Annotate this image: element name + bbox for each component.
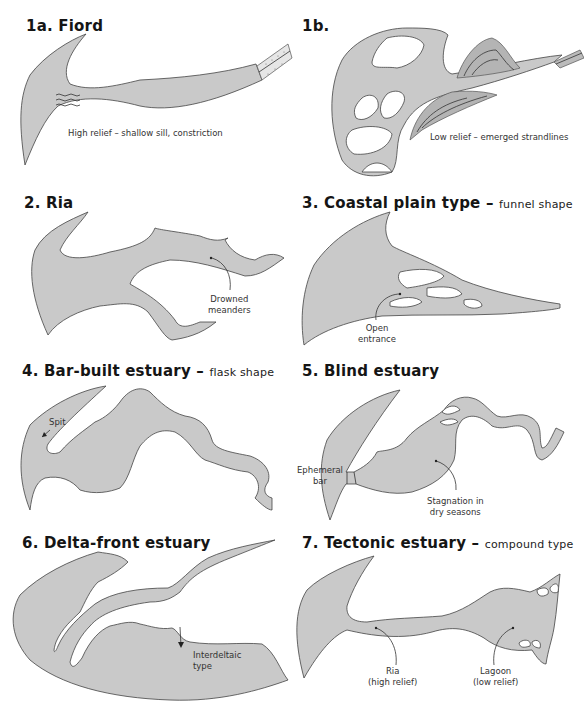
stagnation-label: Stagnation indry seasons	[427, 496, 484, 518]
delta-front-diagram	[0, 530, 292, 713]
panel-6-delta-front: 6. Delta-front estuary Interdeltaictype	[0, 530, 292, 713]
coastal-plain-diagram	[292, 180, 584, 360]
panel-2-ria: 2. Ria Drownedmeanders	[0, 180, 292, 360]
low-relief-fiord-diagram	[292, 0, 584, 180]
fiord-caption: High relief – shallow sill, constriction	[68, 128, 223, 139]
panel-1a-fiord: 1a. Fiord High relief – shallow sill, co…	[0, 0, 292, 180]
lagoon-low-relief-label: Lagoon(low relief)	[473, 666, 518, 688]
panel-5-blind-estuary: 5. Blind estuary Ephemeralbar Stagnation…	[292, 360, 584, 530]
tectonic-diagram	[292, 530, 584, 713]
panel-4-bar-built: 4. Bar-built estuary – flask shape Spit	[0, 360, 292, 530]
open-entrance-label: Openentrance	[358, 323, 396, 345]
bar-built-diagram	[0, 360, 292, 530]
panel-3-coastal-plain: 3. Coastal plain type – funnel shape Ope…	[292, 180, 584, 360]
ria-diagram	[0, 180, 292, 360]
ria-high-relief-label: Ria(high relief)	[368, 666, 417, 688]
fiord-diagram	[0, 0, 292, 180]
panel-1b-low-relief: 1b. Low relief – emerged strandlines	[292, 0, 584, 180]
interdeltaic-label: Interdeltaictype	[193, 650, 241, 672]
ephemeral-bar-label: Ephemeralbar	[297, 465, 343, 487]
panel-7-tectonic: 7. Tectonic estuary – compound type Ria(…	[292, 530, 584, 713]
spit-label: Spit	[49, 417, 66, 428]
low-relief-caption: Low relief – emerged strandlines	[430, 132, 568, 143]
drowned-meanders-label: Drownedmeanders	[208, 294, 251, 316]
